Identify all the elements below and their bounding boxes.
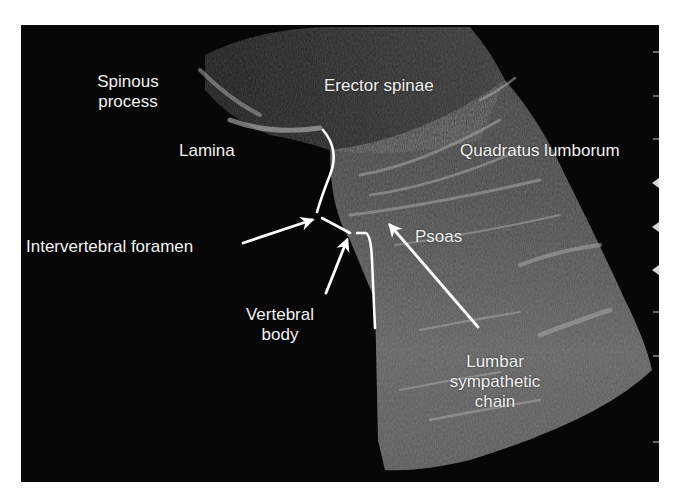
label-erector-spinae: Erector spinae bbox=[324, 76, 434, 96]
ultrasound-figure: Spinous process Erector spinae Lamina Qu… bbox=[0, 0, 673, 497]
label-lamina: Lamina bbox=[179, 141, 235, 161]
label-vertebral-body: Vertebral body bbox=[232, 305, 328, 345]
label-lumbar-sympathetic-chain: Lumbar sympathetic chain bbox=[438, 352, 552, 412]
label-psoas: Psoas bbox=[415, 227, 462, 247]
label-quadratus-lumborum: Quadratus lumborum bbox=[460, 141, 620, 161]
label-spinous-process: Spinous process bbox=[88, 72, 168, 112]
label-intervertebral-foramen: Intervertebral foramen bbox=[26, 237, 193, 257]
